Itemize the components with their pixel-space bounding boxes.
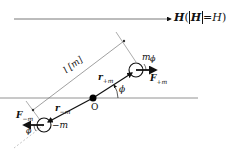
r-plus-label: r+m bbox=[98, 73, 113, 84]
force-minus-label: F−m bbox=[16, 111, 33, 122]
angle-label-origin: ϕ bbox=[119, 85, 125, 94]
magnetic-dipole-diagram: H(H=H) l [m] r+m ϕ O r−m m ϕ F+m F−m −m … bbox=[0, 0, 233, 160]
field-label: H(H=H) bbox=[174, 12, 226, 23]
dimension-witness-top bbox=[116, 32, 136, 62]
angle-label-minus: ϕ bbox=[26, 127, 31, 135]
diagram-canvas bbox=[0, 0, 233, 160]
force-plus-label: F+m bbox=[150, 74, 167, 85]
angle-label-plus: ϕ bbox=[150, 55, 155, 63]
r-minus-label: r−m bbox=[55, 104, 70, 115]
origin-label: O bbox=[91, 103, 98, 112]
origin-point bbox=[90, 95, 97, 102]
angle-arc-origin bbox=[114, 85, 118, 98]
mass-minus-label: −m bbox=[52, 121, 68, 130]
